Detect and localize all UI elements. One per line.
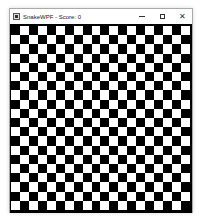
board-cell	[56, 100, 65, 109]
board-cell	[100, 72, 109, 81]
board-cell	[92, 81, 101, 90]
board-cell	[56, 63, 65, 72]
board-cell	[83, 100, 92, 109]
window-controls: ✕	[132, 9, 192, 24]
board-cell	[136, 127, 145, 136]
board-cell	[92, 26, 101, 35]
board-cell	[38, 127, 47, 136]
board-cell	[11, 81, 20, 90]
board-cell	[109, 164, 118, 173]
board-cell	[20, 173, 29, 182]
close-icon: ✕	[179, 13, 186, 21]
game-board[interactable]	[10, 24, 192, 213]
board-cell	[56, 44, 65, 53]
board-cell	[181, 146, 190, 155]
app-icon[interactable]	[13, 13, 20, 20]
board-cell	[100, 155, 109, 164]
board-cell	[11, 118, 20, 127]
board-cell	[47, 192, 56, 201]
board-cell	[20, 72, 29, 81]
board-cell	[118, 146, 127, 155]
board-cell	[145, 173, 154, 182]
board-cell	[136, 173, 145, 182]
board-cell	[56, 90, 65, 99]
board-cell	[181, 63, 190, 72]
board-cell	[109, 90, 118, 99]
board-cell	[38, 192, 47, 201]
board-cell	[145, 136, 154, 145]
board-cell	[29, 72, 38, 81]
board-cell	[172, 118, 181, 127]
board-cell	[181, 54, 190, 63]
board-cell	[109, 201, 118, 210]
board-cell	[47, 72, 56, 81]
board-cell	[145, 35, 154, 44]
board-cell	[172, 173, 181, 182]
board-cell	[11, 127, 20, 136]
board-cell	[136, 201, 145, 210]
board-cell	[29, 155, 38, 164]
board-cell	[118, 54, 127, 63]
board-cell	[74, 182, 83, 191]
board-cell	[100, 136, 109, 145]
board-cell	[172, 72, 181, 81]
board-cell	[181, 35, 190, 44]
title-bar[interactable]: SnakeWPF - Score: 0 ✕	[10, 9, 192, 24]
board-cell	[127, 54, 136, 63]
board-cell	[20, 35, 29, 44]
board-cell	[38, 164, 47, 173]
board-cell	[109, 127, 118, 136]
board-cell	[74, 173, 83, 182]
board-cell	[83, 44, 92, 53]
board-cell	[127, 35, 136, 44]
board-cell	[74, 35, 83, 44]
board-cell	[20, 26, 29, 35]
board-cell	[29, 118, 38, 127]
maximize-button[interactable]	[152, 9, 172, 24]
board-cell	[47, 63, 56, 72]
board-cell	[11, 146, 20, 155]
board-cell	[74, 164, 83, 173]
board-cell	[118, 173, 127, 182]
board-cell	[38, 182, 47, 191]
board-cell	[172, 100, 181, 109]
board-cell	[163, 136, 172, 145]
board-cell	[181, 136, 190, 145]
board-cell	[11, 201, 20, 210]
board-cell	[118, 35, 127, 44]
board-cell	[109, 173, 118, 182]
board-cell	[74, 54, 83, 63]
board-cell	[11, 192, 20, 201]
board-cell	[136, 63, 145, 72]
close-button[interactable]: ✕	[172, 9, 192, 24]
board-cell	[154, 136, 163, 145]
board-cell	[65, 201, 74, 210]
minimize-button[interactable]	[132, 9, 152, 24]
board-cell	[109, 146, 118, 155]
board-cell	[83, 201, 92, 210]
board-cell	[154, 100, 163, 109]
board-cell	[92, 90, 101, 99]
board-cell	[127, 164, 136, 173]
board-cell	[154, 54, 163, 63]
board-cell	[154, 35, 163, 44]
board-cell	[127, 182, 136, 191]
board-cell	[83, 155, 92, 164]
board-cell	[47, 35, 56, 44]
board-cell	[29, 81, 38, 90]
board-cell	[154, 127, 163, 136]
board-cell	[74, 72, 83, 81]
board-cell	[20, 146, 29, 155]
board-cell	[92, 173, 101, 182]
board-cell	[38, 63, 47, 72]
board-cell	[100, 164, 109, 173]
board-cell	[38, 155, 47, 164]
board-cell	[100, 100, 109, 109]
board-cell	[181, 182, 190, 191]
board-cell	[11, 90, 20, 99]
board-cell	[118, 63, 127, 72]
board-cell	[118, 201, 127, 210]
board-cell	[38, 81, 47, 90]
board-cell	[29, 173, 38, 182]
board-cell	[118, 164, 127, 173]
